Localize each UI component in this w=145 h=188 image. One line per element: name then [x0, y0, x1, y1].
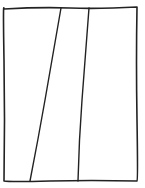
divider-line-right: [78, 8, 89, 181]
divider-line-left: [30, 8, 61, 181]
sketch-canvas: [0, 0, 145, 188]
frame-outline: [4, 7, 138, 182]
